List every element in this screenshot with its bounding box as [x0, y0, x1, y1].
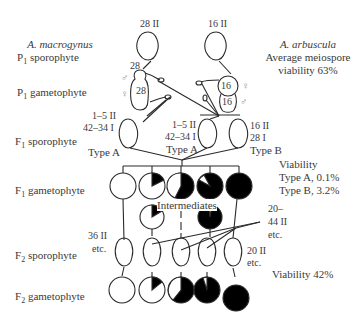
f1-type-a-left-line2: 42–34 I — [83, 122, 114, 134]
f2-sporophyte-3 — [172, 238, 189, 266]
f2-gametophyte-1 — [109, 277, 135, 303]
male-symbol-a: ♂ — [121, 72, 129, 84]
f2-left-line1: 36 II — [88, 230, 107, 242]
label-rest: sporophyte — [25, 135, 77, 147]
p1-sporophyte-a — [137, 32, 158, 60]
f2-right-line1: 20 II — [247, 245, 266, 257]
f1-viability-type-b: Type B, 3.2% — [279, 184, 339, 196]
species-a-label: A. macrogynus — [20, 38, 100, 50]
f2-sporophyte-1 — [115, 238, 132, 266]
f1-type-a-mid-name: Type A — [166, 143, 198, 155]
f2-gametophyte-5 — [223, 285, 249, 311]
label-rest: gametophyte — [27, 86, 87, 98]
label-rest: sporophyte — [25, 249, 77, 261]
f1-type-a-left-line1: 1–5 II — [92, 110, 116, 122]
f2-viability: Viability 42% — [272, 268, 333, 280]
label-rest: sporophyte — [27, 51, 79, 63]
gamete-b-top: 16 — [221, 80, 231, 92]
label-rest: gametophyte — [25, 184, 85, 196]
f2-gametophyte-label: F2 gametophyte — [15, 290, 85, 307]
meiospore-viability-line2: viability 63% — [253, 64, 358, 76]
f2-mid-line2: 44 II — [268, 216, 287, 228]
f1-gametophyte-1 — [110, 173, 136, 199]
f1-sporophyte-label: F1 sporophyte — [15, 135, 77, 152]
f1-gametophyte-label: F1 gametophyte — [15, 184, 85, 201]
f1-viability-title: Viability — [279, 158, 317, 170]
gamete-a-inner: 28 — [136, 85, 146, 97]
parent-a-chromosomes: 28 II — [140, 18, 159, 30]
f2-sporophyte-label: F2 sporophyte — [15, 249, 77, 266]
f1-type-b-line2: 28 I — [250, 132, 266, 144]
parent-b-chromosomes: 16 II — [208, 18, 227, 30]
female-symbol-a: ♀ — [121, 88, 129, 100]
f2-right-line2: etc. — [247, 257, 261, 269]
male-symbol-b: ♂ — [240, 96, 248, 108]
female-symbol-b: ♀ — [242, 80, 250, 92]
p1-sporophyte-label: P1 sporophyte — [17, 51, 79, 68]
f1-sporophyte-a-left — [119, 119, 137, 148]
gamete-b-bottom: 16 — [222, 96, 232, 108]
f1-sporophyte-b — [229, 119, 247, 148]
species-b-label: A. arbuscula — [258, 38, 358, 50]
f1-gametophyte-5 — [226, 173, 252, 199]
f1-type-b-name: Type B — [250, 144, 282, 156]
f2-mid-line1: 20– — [268, 203, 283, 215]
f1-type-b-line1: 16 II — [250, 120, 269, 132]
f2-sporophyte-5 — [224, 238, 241, 266]
f1-type-a-mid-line1: 1–5 II — [172, 119, 196, 131]
f2-mid-line3: etc. — [268, 229, 282, 241]
label-rest: gametophyte — [25, 290, 85, 302]
f2-left-line2: etc. — [92, 243, 106, 255]
f1-type-a-mid-line2: 42–34 I — [165, 131, 196, 143]
f1-type-a-left-name: Type A — [88, 146, 120, 158]
f1-viability-type-a: Type A, 0.1% — [279, 171, 339, 183]
f1-sporophyte-a-mid — [198, 119, 216, 148]
p1-sporophyte-b — [205, 32, 226, 60]
p1-gametophyte-label: P1 gametophyte — [17, 86, 87, 103]
gamete-a-count: 28 — [130, 60, 140, 72]
intermediates-label: Intermediates — [157, 199, 217, 211]
meiospore-viability-line1: Average meiospore — [253, 51, 358, 63]
